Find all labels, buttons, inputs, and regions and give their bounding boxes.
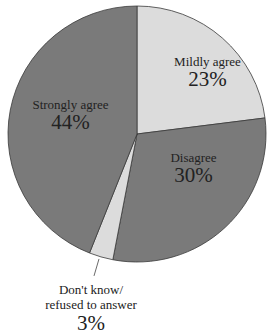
slice-label-disagree: Disagree 30% (136, 151, 251, 186)
pie-slices (8, 6, 266, 262)
label-percent: 23% (150, 69, 265, 90)
slice-label-mildly-agree: Mildly agree 23% (150, 55, 265, 90)
label-percent: 30% (136, 165, 251, 186)
label-percent: 44% (13, 112, 128, 133)
leader-line (94, 259, 99, 276)
slice-label-strongly-agree: Strongly agree 44% (13, 98, 128, 133)
label-name-line2: refused to answer (32, 297, 150, 312)
label-percent: 3% (32, 313, 150, 334)
slice-label-dont-know: Don't know/ refused to answer 3% (32, 282, 150, 334)
label-name-line1: Don't know/ (32, 282, 150, 297)
